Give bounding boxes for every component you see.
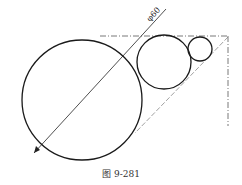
dimension-line [34,9,166,153]
medium-circle [137,35,191,89]
geometry-figure: φ60 [0,0,242,185]
figure-caption: 图 9-281 [0,167,242,180]
dimension-label: φ60 [145,6,162,24]
small-circle [188,37,212,61]
large-circle [22,40,142,160]
